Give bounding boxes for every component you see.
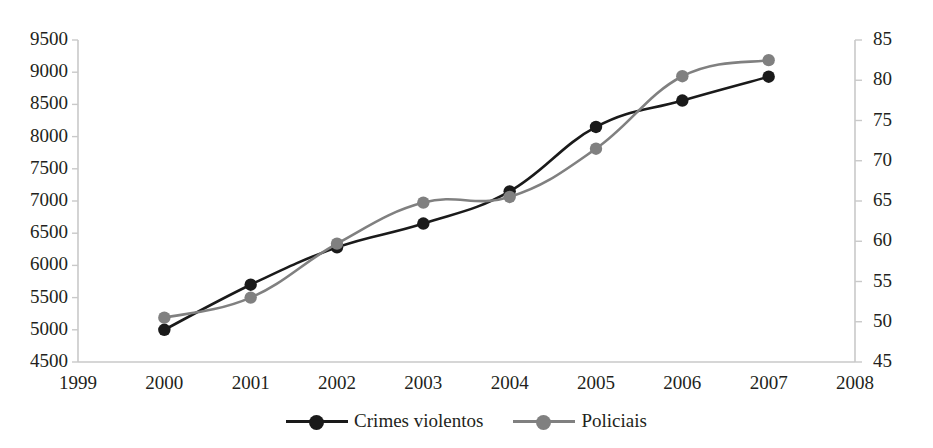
- data-point-marker: [676, 94, 688, 106]
- data-point-marker: [590, 142, 602, 154]
- y-axis-left-tick-label: 9000: [2, 60, 68, 82]
- y-axis-left-tick-label: 4500: [2, 350, 68, 372]
- data-point-marker: [762, 71, 774, 83]
- legend-label: Crimes violentos: [354, 410, 483, 432]
- legend-item[interactable]: Crimes violentos: [286, 410, 483, 432]
- data-point-marker: [158, 324, 170, 336]
- chart-figure: 9500900085008000750070006500600055005000…: [0, 0, 933, 448]
- data-point-marker: [417, 196, 429, 208]
- y-axis-right-tick-label: 50: [873, 310, 933, 332]
- chart-legend: Crimes violentosPoliciais: [0, 410, 933, 432]
- y-axis-right-tick-label: 85: [873, 28, 933, 50]
- y-axis-left-tick-label: 9500: [2, 28, 68, 50]
- y-axis-left-ticks: [72, 40, 78, 362]
- y-axis-left-tick-label: 8000: [2, 125, 68, 147]
- y-axis-right-tick-label: 65: [873, 189, 933, 211]
- y-axis-right-ticks: [855, 40, 862, 362]
- y-axis-left-tick-label: 6000: [2, 253, 68, 275]
- y-axis-left-tick-label: 6500: [2, 221, 68, 243]
- x-axis-tick-label: 2000: [124, 372, 204, 394]
- y-axis-right-tick-label: 80: [873, 68, 933, 90]
- x-axis-tick-label: 2008: [815, 372, 895, 394]
- data-point-marker: [158, 312, 170, 324]
- series-line: [164, 77, 768, 330]
- y-axis-right-tick-label: 70: [873, 149, 933, 171]
- data-point-marker: [676, 70, 688, 82]
- legend-label: Policiais: [581, 410, 646, 432]
- x-axis-tick-label: 2001: [211, 372, 291, 394]
- y-axis-right-tick-label: 60: [873, 229, 933, 251]
- y-axis-left-tick-label: 5000: [2, 318, 68, 340]
- data-point-marker: [244, 291, 256, 303]
- y-axis-right-tick-label: 55: [873, 270, 933, 292]
- y-axis-right-tick-label: 45: [873, 350, 933, 372]
- data-point-marker: [590, 121, 602, 133]
- x-axis-tick-label: 2007: [729, 372, 809, 394]
- data-point-marker: [331, 237, 343, 249]
- data-point-marker: [762, 54, 774, 66]
- x-axis-tick-label: 2006: [642, 372, 722, 394]
- y-axis-left-tick-label: 8500: [2, 92, 68, 114]
- legend-marker-icon: [513, 413, 575, 429]
- y-axis-right-tick-label: 75: [873, 109, 933, 131]
- data-point-marker: [417, 217, 429, 229]
- x-axis-tick-label: 1999: [38, 372, 118, 394]
- legend-marker-icon: [286, 413, 348, 429]
- y-axis-left-tick-label: 7500: [2, 157, 68, 179]
- y-axis-left-tick-label: 5500: [2, 286, 68, 308]
- data-point-marker: [503, 191, 515, 203]
- y-axis-left-tick-label: 7000: [2, 189, 68, 211]
- x-axis-tick-label: 2004: [470, 372, 550, 394]
- series-layer: [158, 54, 775, 336]
- data-point-marker: [244, 279, 256, 291]
- x-axis-tick-label: 2002: [297, 372, 377, 394]
- x-axis-tick-label: 2005: [556, 372, 636, 394]
- legend-item[interactable]: Policiais: [513, 410, 646, 432]
- x-axis-tick-label: 2003: [383, 372, 463, 394]
